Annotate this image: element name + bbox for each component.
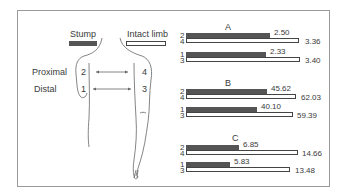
value-c-4: 14.66 [302,150,322,158]
value-a-1: 2.33 [270,48,286,56]
value-b-1: 40.10 [261,103,281,111]
group-a-title: A [225,23,231,32]
group-b-title: B [225,79,231,88]
legend-intact-swatch [126,41,166,46]
row-label-3: 3 [180,167,184,175]
row-label-4: 4 [180,150,184,158]
row-label-4: 4 [180,38,184,46]
distal-label: Distal [34,85,57,94]
value-b-3: 59.39 [297,112,317,120]
row-label-3: 3 [180,57,184,65]
bar-a-4 [186,38,299,43]
bar-b-3 [186,112,293,117]
value-a-3: 3.40 [305,57,321,65]
value-b-2: 45.62 [271,85,291,93]
point-3-label: 3 [142,85,147,94]
bar-a-3 [186,57,300,62]
value-a-4: 3.36 [305,38,321,46]
bar-c-4 [186,150,298,155]
value-c-3: 13.48 [295,167,315,175]
point-4-label: 4 [142,68,147,77]
row-label-4: 4 [180,94,184,102]
value-c-1: 5.83 [234,158,250,166]
proximal-label: Proximal [32,68,67,77]
bar-b-4 [186,94,296,99]
bar-c-3 [186,167,290,172]
value-a-2: 2.50 [274,29,290,37]
legend-stump-label: Stump [70,30,96,39]
legend-stump-swatch [69,41,97,46]
point-1-label: 1 [81,85,86,94]
legend-intact-label: Intact limb [127,30,168,39]
group-c-title: C [232,134,239,143]
value-c-2: 6.85 [243,141,259,149]
point-2-label: 2 [81,68,86,77]
row-label-3: 3 [180,112,184,120]
value-b-4: 62.03 [301,94,321,102]
